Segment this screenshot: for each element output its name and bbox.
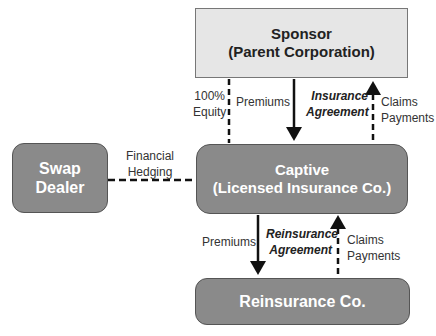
reinsurance-node: Reinsurance Co.	[195, 278, 410, 325]
ct-line1: Claims	[381, 94, 434, 110]
captive-subtitle: (Licensed Insurance Co.)	[213, 179, 391, 197]
ra-line1: Reinsurance	[266, 226, 332, 242]
reinsurance-agreement-label: ReinsuranceAgreement	[266, 226, 332, 258]
premiums-bottom-label: Premiums	[202, 234, 256, 250]
swap-title: Swap	[36, 159, 85, 178]
sponsor-subtitle: (Parent Corporation)	[228, 43, 375, 61]
claims-top-label: ClaimsPayments	[381, 94, 434, 126]
equity-label-line1: 100%	[193, 88, 225, 104]
ra-line2: Agreement	[266, 242, 332, 258]
h-line1: Financial	[126, 148, 174, 164]
equity-label-line2: Equity	[193, 104, 225, 120]
hedging-label: FinancialHedging	[126, 148, 174, 180]
captive-node: Captive(Licensed Insurance Co.)	[196, 144, 408, 214]
premiums-top-label: Premiums	[236, 94, 290, 110]
captive-title: Captive	[213, 161, 391, 179]
swap-subtitle: Dealer	[36, 178, 85, 197]
equity-label: 100%Equity	[193, 88, 225, 120]
h-line2: Hedging	[126, 164, 174, 180]
claims-bottom-label: ClaimsPayments	[347, 232, 400, 264]
ia-line2: Agreement	[306, 104, 368, 120]
swap-dealer-node: SwapDealer	[12, 143, 108, 213]
cb-line1: Claims	[347, 232, 400, 248]
sponsor-node: Sponsor(Parent Corporation)	[195, 8, 408, 78]
ia-line1: Insurance	[306, 88, 368, 104]
cb-line2: Payments	[347, 248, 400, 264]
reinsurance-title: Reinsurance Co.	[239, 292, 365, 311]
ct-line2: Payments	[381, 110, 434, 126]
sponsor-title: Sponsor	[228, 25, 375, 43]
arrow-down-icon	[286, 127, 302, 141]
insurance-agreement-label: InsuranceAgreement	[306, 88, 368, 120]
arrow-down-icon	[250, 261, 266, 275]
